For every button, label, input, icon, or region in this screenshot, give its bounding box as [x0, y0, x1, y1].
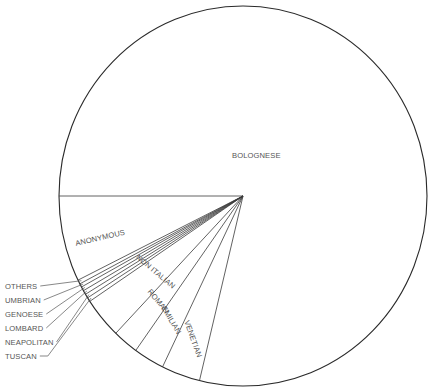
pie-chart: ANONYMOUSOTHERSUMBRIANGENOESELOMBARDNEAP… — [0, 0, 429, 387]
slice-label-umbrian: UMBRIAN — [5, 296, 41, 305]
slice-label-neapolitan: NEAPOLITAN — [5, 338, 54, 347]
slice-label-bolognese: BOLOGNESE — [232, 151, 281, 160]
leader-line-umbrian — [44, 284, 83, 300]
leader-line-others — [40, 281, 81, 286]
slice-label-others: OTHERS — [5, 282, 37, 291]
slice-label-tuscan: TUSCAN — [5, 352, 37, 361]
slice-label-lombard: LOMBARD — [5, 324, 44, 333]
leader-line-neapolitan — [57, 295, 89, 342]
slice-label-genoese: GENOESE — [5, 310, 43, 319]
